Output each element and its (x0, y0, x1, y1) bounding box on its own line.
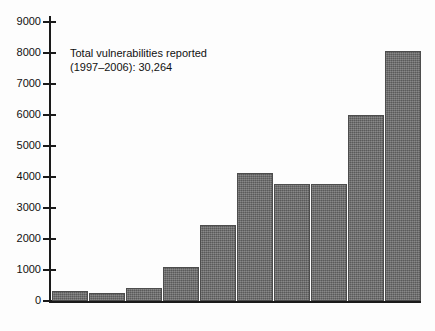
bars-layer: 3111997262199841719991090200024372001412… (0, 0, 435, 331)
bar[interactable] (311, 184, 347, 301)
bar[interactable] (52, 291, 88, 301)
chart-annotation: Total vulnerabilities reported (1997–200… (70, 46, 207, 74)
bar[interactable] (126, 288, 162, 301)
bar[interactable] (274, 184, 310, 301)
bar[interactable] (385, 51, 421, 301)
bar[interactable] (89, 293, 125, 301)
bar[interactable] (348, 115, 384, 301)
annotation-line-2: (1997–2006): 30,264 (70, 60, 207, 74)
annotation-line-1: Total vulnerabilities reported (70, 46, 207, 60)
bar-chart: 0100020003000400050006000700080009000 31… (0, 0, 435, 331)
bar[interactable] (163, 267, 199, 301)
bar[interactable] (200, 225, 236, 301)
bar[interactable] (237, 173, 273, 301)
